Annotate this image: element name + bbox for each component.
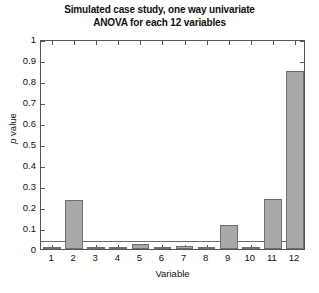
x-axis-tick-label: 4 bbox=[105, 253, 129, 263]
y-axis-tick-label: 0.3 bbox=[2, 182, 36, 192]
y-axis-tick-label: 0.9 bbox=[2, 56, 36, 66]
x-axis-tick-label: 8 bbox=[194, 253, 218, 263]
x-axis-tick-mark-top bbox=[140, 41, 141, 45]
chart-title: Simulated case study, one way univariate… bbox=[0, 4, 319, 29]
y-axis-tick-mark bbox=[41, 104, 45, 105]
y-axis-tick-mark bbox=[41, 230, 45, 231]
x-axis-tick-mark-top bbox=[273, 41, 274, 45]
y-axis-title: p value bbox=[7, 94, 18, 164]
bar bbox=[242, 247, 260, 249]
bar bbox=[65, 200, 83, 249]
x-axis-tick-mark-top bbox=[96, 41, 97, 45]
x-axis-tick-label: 5 bbox=[127, 253, 151, 263]
x-axis-title: Variable bbox=[40, 268, 305, 279]
x-axis-tick-mark-top bbox=[207, 41, 208, 45]
x-axis-tick-mark-top bbox=[74, 41, 75, 45]
x-axis-tick-label: 1 bbox=[39, 253, 63, 263]
bar bbox=[176, 246, 194, 249]
y-axis-title-symbol: p bbox=[7, 139, 18, 144]
x-axis-tick-labels: 123456789101112 bbox=[40, 253, 305, 267]
plot-inner bbox=[41, 41, 304, 249]
x-axis-tick-label: 12 bbox=[282, 253, 306, 263]
y-axis-title-rest: value bbox=[7, 113, 18, 138]
y-axis-tick-label: 0.1 bbox=[2, 224, 36, 234]
bar bbox=[43, 247, 61, 249]
y-axis-tick-mark bbox=[41, 146, 45, 147]
y-axis-tick-mark bbox=[41, 62, 45, 63]
bar bbox=[264, 199, 282, 249]
x-axis-tick-label: 9 bbox=[216, 253, 240, 263]
x-axis-tick-label: 11 bbox=[260, 253, 284, 263]
chart-title-line-2: ANOVA for each 12 variables bbox=[0, 17, 319, 30]
y-axis-tick-mark bbox=[41, 41, 45, 42]
y-axis-tick-label: 0.8 bbox=[2, 77, 36, 87]
bar bbox=[154, 247, 172, 249]
bar bbox=[220, 225, 238, 249]
y-axis-tick-mark bbox=[41, 209, 45, 210]
x-axis-tick-mark-top bbox=[295, 41, 296, 45]
x-axis-tick-label: 10 bbox=[238, 253, 262, 263]
x-axis-tick-mark-top bbox=[251, 41, 252, 45]
y-axis-tick-mark-right bbox=[300, 41, 304, 42]
bar bbox=[87, 247, 105, 249]
y-axis-tick-mark bbox=[41, 167, 45, 168]
chart-title-line-1: Simulated case study, one way univariate bbox=[0, 4, 319, 17]
y-axis-tick-labels: 00.10.20.30.40.50.60.70.80.91 bbox=[0, 40, 36, 250]
x-axis-tick-mark-top bbox=[229, 41, 230, 45]
figure-canvas: Simulated case study, one way univariate… bbox=[0, 0, 319, 293]
y-axis-tick-mark bbox=[41, 125, 45, 126]
bar bbox=[109, 247, 127, 249]
y-axis-tick-label: 0.2 bbox=[2, 203, 36, 213]
x-axis-tick-mark-top bbox=[118, 41, 119, 45]
plot-area bbox=[40, 40, 305, 250]
x-axis-tick-label: 7 bbox=[172, 253, 196, 263]
y-axis-tick-label: 1 bbox=[2, 35, 36, 45]
x-axis-tick-mark-top bbox=[185, 41, 186, 45]
y-axis-tick-mark bbox=[41, 83, 45, 84]
y-axis-tick-mark-right bbox=[300, 62, 304, 63]
x-axis-tick-label: 6 bbox=[149, 253, 173, 263]
x-axis-tick-label: 2 bbox=[61, 253, 85, 263]
x-axis-tick-mark-top bbox=[52, 41, 53, 45]
bar bbox=[286, 71, 304, 250]
bar bbox=[198, 247, 216, 249]
y-axis-tick-mark bbox=[41, 188, 45, 189]
x-axis-tick-label: 3 bbox=[83, 253, 107, 263]
y-axis-tick-label: 0 bbox=[2, 245, 36, 255]
bar bbox=[132, 244, 150, 249]
x-axis-tick-mark-top bbox=[162, 41, 163, 45]
